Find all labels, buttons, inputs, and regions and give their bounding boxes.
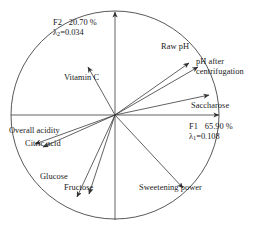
f1-variance-percent: 65.90 % <box>205 122 233 131</box>
pca-correlation-circle-figure: F220.70 % λ2=0.034 F165.90 % λ1=0.108 Ra… <box>0 0 266 229</box>
vector-sweetening-power <box>115 115 183 188</box>
label-overall-acidity: Overall acidity <box>9 126 60 136</box>
f2-axis-label-line2: λ2=0.034 <box>53 28 97 40</box>
vector-ph-after-centrifugation <box>115 67 198 115</box>
plot-canvas <box>0 0 266 229</box>
f1-axis-label: F165.90 % λ1=0.108 <box>189 122 233 144</box>
label-raw-ph: Raw pH <box>161 42 189 52</box>
label-ph-after-centrifugation: pH after centrifugation <box>196 57 266 76</box>
f1-axis-label-line1: F165.90 % <box>189 122 233 132</box>
f2-axis-name: F2 <box>53 18 62 27</box>
f2-eigenvalue-value: =0.034 <box>60 28 84 37</box>
label-citric-acid: Citric acid <box>25 139 61 149</box>
f2-axis-label-line1: F220.70 % <box>53 18 97 28</box>
f1-axis-name: F1 <box>189 122 198 131</box>
f1-eigenvalue-value: =0.108 <box>196 132 220 141</box>
label-ph-after-line2: centrifugation <box>196 67 266 77</box>
f2-axis-label: F220.70 % λ2=0.034 <box>53 18 97 40</box>
f2-variance-percent: 20.70 % <box>69 18 97 27</box>
label-vitamin-c: Vitamin C <box>64 73 99 83</box>
label-sweetening-power: Sweetening power <box>139 183 202 193</box>
label-glucose: Glucose <box>40 172 68 182</box>
label-ph-after-line1: pH after <box>196 57 266 67</box>
label-fructose: Fructose <box>64 183 93 193</box>
label-saccharose: Saccharose <box>191 101 229 111</box>
f1-axis-label-line2: λ1=0.108 <box>189 132 233 144</box>
